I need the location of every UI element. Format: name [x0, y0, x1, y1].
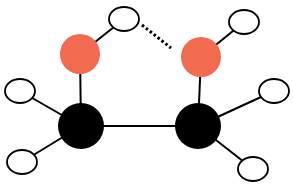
hydrogen-atom-5	[259, 79, 289, 103]
hydrogen-atom-1	[109, 7, 139, 31]
hydrogen-atom-2	[229, 10, 259, 34]
oxygen-atoms	[60, 34, 221, 77]
oxygen-atom-2	[181, 37, 221, 77]
carbon-atom-2	[175, 103, 221, 149]
molecule-diagram	[0, 0, 293, 188]
bonds	[20, 19, 274, 169]
molecule-svg	[0, 0, 293, 188]
carbon-atom-1	[58, 103, 104, 149]
hydrogen-atom-6	[238, 157, 268, 181]
hydrogen-bond	[142, 25, 171, 48]
hydrogen-atom-3	[5, 79, 35, 103]
oxygen-atom-1	[60, 34, 100, 74]
hydrogen-atom-4	[7, 150, 37, 174]
hydrogen-atoms	[5, 7, 289, 181]
